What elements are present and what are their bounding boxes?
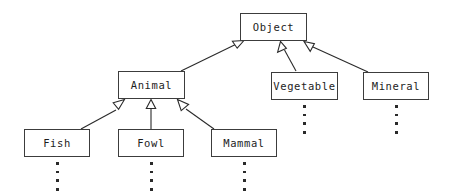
node-object[interactable]: Object: [240, 13, 307, 41]
ellipsis-dot: [56, 188, 59, 191]
ellipsis-dot: [303, 114, 306, 117]
ellipsis-vegetable: [303, 105, 306, 140]
node-mammal-label: Mammal: [223, 138, 265, 149]
node-animal-label: Animal: [131, 80, 173, 91]
node-fowl-label: Fowl: [137, 138, 165, 149]
ellipsis-dot: [243, 188, 246, 191]
node-vegetable[interactable]: Vegetable: [271, 72, 338, 100]
ellipsis-dot: [56, 171, 59, 174]
node-object-label: Object: [253, 22, 295, 33]
ellipsis-dot: [395, 114, 398, 117]
ellipsis-dot: [243, 179, 246, 182]
node-mammal[interactable]: Mammal: [211, 129, 277, 157]
ellipsis-dot: [395, 105, 398, 108]
node-mineral-label: Mineral: [372, 81, 420, 92]
ellipsis-dot: [150, 171, 153, 174]
ellipsis-dot: [150, 188, 153, 191]
edge-fish-to-animal: [81, 100, 125, 130]
node-mineral[interactable]: Mineral: [363, 72, 429, 100]
ellipsis-dot: [395, 131, 398, 134]
node-vegetable-label: Vegetable: [273, 81, 335, 92]
node-animal[interactable]: Animal: [118, 71, 185, 99]
ellipsis-dot: [56, 179, 59, 182]
ellipsis-mineral: [395, 105, 398, 140]
edge-fowl-to-animal: [146, 100, 155, 130]
node-fish[interactable]: Fish: [24, 129, 90, 157]
node-fowl[interactable]: Fowl: [118, 129, 184, 157]
ellipsis-dot: [56, 162, 59, 165]
node-fish-label: Fish: [43, 138, 71, 149]
ellipsis-dot: [303, 122, 306, 125]
ellipsis-mammal: [243, 162, 246, 192]
ellipsis-dot: [150, 162, 153, 165]
ellipsis-fish: [56, 162, 59, 192]
ellipsis-dot: [303, 105, 306, 108]
ellipsis-dot: [243, 171, 246, 174]
ellipsis-dot: [395, 122, 398, 125]
diagram-canvas: Object Animal Vegetable Mineral Fish Fow…: [0, 0, 449, 192]
ellipsis-dot: [243, 162, 246, 165]
ellipsis-fowl: [150, 162, 153, 192]
edge-mammal-to-animal: [178, 100, 215, 130]
edge-vegetable-to-object: [278, 42, 296, 72]
ellipsis-dot: [150, 179, 153, 182]
edge-mineral-to-object: [304, 42, 368, 73]
ellipsis-dot: [303, 131, 306, 134]
edge-animal-to-object: [181, 41, 244, 72]
